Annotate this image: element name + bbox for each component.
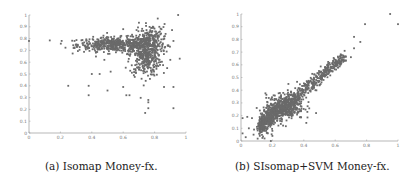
y-tick-label: 0.5 [20, 72, 27, 77]
caption-sisomap-svm: (b) SIsomap+SVM Money-fx. [235, 160, 390, 172]
data-points [242, 13, 399, 142]
y-tick-label: 0.2 [232, 113, 239, 118]
y-tick-label: 0.6 [20, 60, 27, 65]
x-tick-label: 1 [185, 135, 188, 140]
y-tick-label: 1 [236, 12, 239, 17]
y-tick-label: 0 [236, 139, 239, 144]
y-tick-label: 0.4 [232, 88, 239, 93]
y-tick-label: 0.9 [20, 24, 27, 29]
x-tick-label: 0.6 [120, 135, 127, 140]
x-tick-label: 0 [240, 143, 243, 148]
y-tick-label: 0.1 [232, 126, 239, 131]
y-tick-label: 0.1 [20, 119, 27, 124]
data-points [28, 14, 181, 114]
y-tick-label: 0.3 [20, 95, 27, 100]
x-tick-label: 0.8 [151, 135, 158, 140]
x-tick-label: 0.6 [332, 143, 339, 148]
y-tick-label: 0.7 [20, 48, 27, 53]
x-tick-label: 0.2 [269, 143, 276, 148]
y-tick-label: 1 [24, 13, 27, 18]
y-tick-label: 0 [24, 131, 27, 136]
y-tick-label: 0.7 [232, 50, 239, 55]
x-tick-label: 0.8 [363, 143, 370, 148]
x-tick-label: 0.4 [300, 143, 307, 148]
x-tick-label: 0.2 [57, 135, 64, 140]
y-tick-label: 0.8 [232, 37, 239, 42]
panel-isomap: 00.20.40.60.8100.10.20.30.40.50.60.70.80… [0, 0, 209, 188]
caption-isomap: (a) Isomap Money-fx. [45, 160, 158, 172]
y-tick-label: 0.2 [20, 107, 27, 112]
x-tick-label: 1 [397, 143, 400, 148]
y-tick-label: 0.4 [20, 83, 27, 88]
panel-sisomap-svm: 00.20.40.60.8100.10.20.30.40.50.60.70.80… [209, 0, 418, 188]
x-tick-label: 0 [28, 135, 31, 140]
y-tick-label: 0.9 [232, 24, 239, 29]
x-tick-label: 0.4 [88, 135, 95, 140]
y-tick-label: 0.5 [232, 75, 239, 80]
y-tick-label: 0.6 [232, 62, 239, 67]
y-tick-label: 0.3 [232, 100, 239, 105]
y-tick-label: 0.8 [20, 36, 27, 41]
